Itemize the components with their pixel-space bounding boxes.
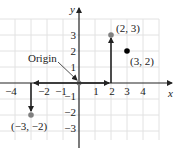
svg-text:−4: −4 <box>5 85 17 97</box>
point-2-3 <box>108 32 114 38</box>
svg-text:4: 4 <box>140 85 146 97</box>
point-neg3-neg2 <box>28 112 34 118</box>
point-3-2 <box>124 48 130 54</box>
svg-text:−1: −1 <box>64 90 76 102</box>
x-axis-label: x <box>167 87 173 99</box>
svg-text:1: 1 <box>93 85 99 97</box>
coordinate-plane: x y −4 −2 −1 1 2 3 4 3 2 1 −1 −2 −3 Orig… <box>0 0 177 150</box>
svg-text:3: 3 <box>71 29 77 41</box>
y-axis-label: y <box>69 3 75 15</box>
svg-text:1: 1 <box>71 61 77 73</box>
point-2-3-label: (2, 3) <box>116 22 140 35</box>
point-3-2-label: (3, 2) <box>130 55 154 68</box>
svg-text:−3: −3 <box>64 122 76 134</box>
svg-text:−2: −2 <box>64 106 76 118</box>
svg-text:2: 2 <box>109 85 115 97</box>
svg-text:−2: −2 <box>38 85 50 97</box>
svg-text:3: 3 <box>124 85 130 97</box>
origin-label: Origin <box>28 52 57 64</box>
svg-text:2: 2 <box>71 45 77 57</box>
y-tick-labels: 3 2 1 −1 −2 −3 <box>64 29 76 134</box>
point-neg3-neg2-label: (−3, −2) <box>11 120 48 133</box>
